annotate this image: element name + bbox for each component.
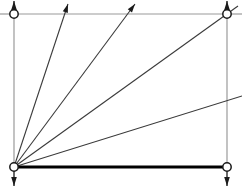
vector-surface[interactable] [0,0,242,195]
ray-line-4[interactable] [14,96,242,167]
diagram-canvas[interactable] [0,0,242,195]
arrow-bottom-right-down-head[interactable] [224,177,230,186]
ray-fan-group [14,4,242,167]
arrow-top-left-up-head[interactable] [11,1,17,10]
ray-line-3[interactable] [14,6,238,167]
ray-arrowhead-2 [128,4,135,12]
arrow-bottom-left-down-head[interactable] [11,177,17,186]
node-top-right[interactable] [223,10,231,18]
node-bottom-left[interactable] [10,163,18,171]
ray-line-2[interactable] [14,4,135,167]
corner-arrow-group [11,1,230,186]
node-bottom-right[interactable] [223,163,231,171]
node-top-left[interactable] [10,10,18,18]
ray-line-1[interactable] [14,4,68,167]
arrow-top-right-up-head[interactable] [224,1,230,10]
ray-arrowhead-1 [63,4,68,13]
